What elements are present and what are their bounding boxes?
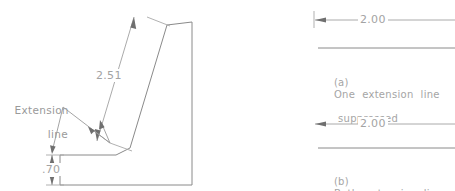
example-a-marker: (a) bbox=[334, 77, 349, 88]
height-dimension-arrow-top bbox=[50, 155, 54, 163]
inclined-dimension-value: 2.51 bbox=[94, 69, 124, 82]
extension-line-callout-label: Extension line bbox=[0, 92, 68, 152]
height-dimension-arrow-bottom bbox=[50, 177, 54, 185]
example-a-caption-line2: suppressed bbox=[338, 113, 455, 125]
technical-drawing-screenshot: 2.51 .70 Extension line 2.00 (a) One ext… bbox=[0, 0, 455, 191]
inclined-extension-line-upper bbox=[147, 17, 170, 26]
example-a-dimension-value: 2.00 bbox=[358, 13, 388, 26]
leader-arrow-inclined-a bbox=[88, 127, 95, 135]
example-b-dimension-value: 2.00 bbox=[358, 117, 388, 130]
inclined-dimension-group bbox=[95, 17, 170, 151]
outline-top-edge bbox=[167, 22, 192, 25]
example-b-caption-line1: Both extension lines bbox=[334, 188, 449, 191]
example-a-caption: (a) One extension line suppressed bbox=[320, 65, 455, 149]
extension-line-callout-line1: Extension bbox=[15, 104, 69, 116]
example-b-marker: (b) bbox=[334, 176, 349, 187]
example-a-caption-line1: One extension line bbox=[334, 89, 440, 100]
example-b-caption: (b) Both extension lines suppressed bbox=[320, 164, 455, 191]
part-outline bbox=[60, 22, 192, 185]
example-a-arrow-left bbox=[315, 18, 326, 23]
outline-inclined-near-edge bbox=[130, 25, 167, 148]
inclined-extension-line-lower bbox=[110, 143, 132, 151]
height-dimension-value: .70 bbox=[40, 163, 62, 176]
extension-line-callout-line2: line bbox=[48, 128, 68, 140]
